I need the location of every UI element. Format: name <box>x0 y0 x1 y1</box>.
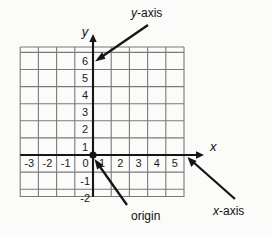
y-axis-callout-label: y-axis <box>130 6 162 20</box>
x-axis-callout-suffix: -axis <box>219 204 244 218</box>
x-tick-label: -3 <box>24 157 34 169</box>
diagram-canvas: y x -3 -2 -1 0 1 2 3 4 5 6 5 4 3 2 1 -1 … <box>0 0 272 236</box>
x-tick-label: -1 <box>61 157 71 169</box>
origin-tick-label: 0 <box>82 157 88 169</box>
y-tick-label: 4 <box>82 89 88 101</box>
y-tick-label: 3 <box>82 106 88 118</box>
y-axis-callout-suffix: -axis <box>137 6 162 20</box>
x-tick-label: 3 <box>135 157 141 169</box>
x-tick-label: -2 <box>43 157 53 169</box>
origin-callout-label: origin <box>131 209 160 223</box>
y-tick-label: 5 <box>82 72 88 84</box>
y-tick-label: 1 <box>82 141 88 153</box>
coordinate-plane-diagram: y x -3 -2 -1 0 1 2 3 4 5 6 5 4 3 2 1 -1 … <box>0 0 272 236</box>
x-tick-label: 4 <box>154 157 160 169</box>
y-tick-label: 6 <box>82 55 88 67</box>
x-tick-label: 2 <box>117 157 123 169</box>
diagram-background <box>0 0 272 236</box>
origin-dot <box>89 151 96 158</box>
y-tick-label: 2 <box>82 123 88 135</box>
y-tick-label: -1 <box>80 175 90 187</box>
x-tick-label: 5 <box>172 157 178 169</box>
x-axis-callout-label: x-axis <box>212 204 244 218</box>
x-axis-name-label: x <box>209 139 217 154</box>
y-tick-label: -2 <box>80 192 90 204</box>
